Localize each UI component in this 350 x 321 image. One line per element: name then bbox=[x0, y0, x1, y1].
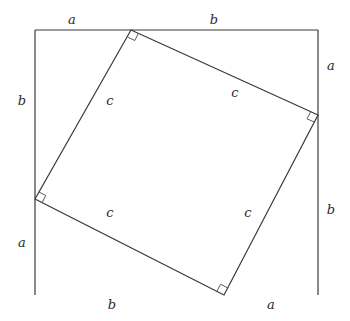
label-top-left: a bbox=[68, 12, 76, 27]
label-right-top: a bbox=[327, 58, 335, 73]
side-labels: a b a b a b a b bbox=[18, 12, 335, 312]
label-hyp-top-left: c bbox=[106, 93, 114, 108]
label-left-top: b bbox=[18, 93, 26, 108]
label-bottom-right: a bbox=[267, 297, 275, 312]
label-right-bottom: b bbox=[327, 202, 335, 217]
hypotenuse-labels: c c c c bbox=[106, 85, 252, 220]
label-top-right: b bbox=[210, 12, 218, 27]
pythagorean-proof-diagram: a b a b a b a b c c c c bbox=[0, 0, 350, 321]
outer-square bbox=[35, 30, 318, 295]
label-hyp-bottom-right: c bbox=[244, 205, 252, 220]
right-angle-marker-top bbox=[128, 33, 139, 40]
label-hyp-top-right: c bbox=[231, 85, 239, 100]
label-left-bottom: a bbox=[18, 235, 26, 250]
inner-square-outline bbox=[35, 30, 318, 295]
label-hyp-bottom-left: c bbox=[106, 205, 114, 220]
inner-square bbox=[35, 30, 318, 295]
label-bottom-left: b bbox=[108, 297, 116, 312]
right-angle-markers bbox=[39, 33, 315, 291]
